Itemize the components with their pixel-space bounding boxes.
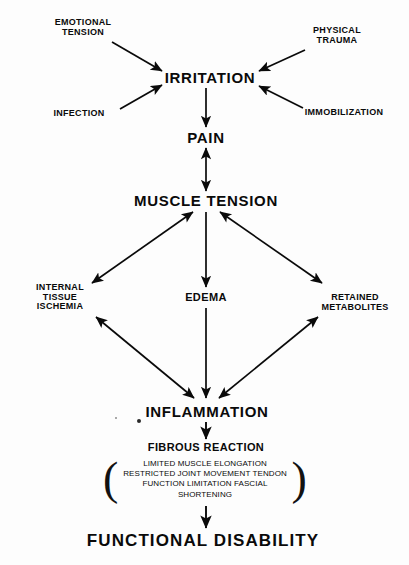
node-fibrous-reaction: FIBROUS REACTION (148, 442, 264, 454)
open-paren: ( (103, 457, 118, 503)
fibrous-effect-item: LIMITED MUSCLE ELONGATION (143, 459, 267, 468)
edge-physical-trauma-to-irritation (259, 50, 305, 71)
node-emotional-tension-line2: TENSION (38, 28, 128, 38)
fibrous-effects-list: ( LIMITED MUSCLE ELONGATION RESTRICTED J… (105, 459, 305, 500)
node-infection: INFECTION (53, 109, 104, 119)
node-immobilization: IMMOBILIZATION (305, 108, 384, 118)
node-retained-metabolites-line2: METABOLITES (305, 303, 405, 313)
node-inflammation: INFLAMMATION (145, 404, 268, 420)
node-edema: EDEMA (185, 292, 227, 304)
node-muscle-tension: MUSCLE TENSION (134, 193, 278, 209)
scan-speck (137, 419, 141, 423)
node-physical-trauma-line2: TRAUMA (292, 36, 382, 46)
node-physical-trauma: PHYSICAL TRAUMA (292, 26, 382, 45)
scan-speck (115, 417, 117, 419)
edge-muscle-tension-ischemia (92, 212, 193, 283)
edge-ischemia-inflammation (96, 317, 194, 398)
edge-retained-metabolites-inflammation (219, 317, 318, 398)
node-functional-disability: FUNCTIONAL DISABILITY (87, 532, 319, 550)
node-ischemia-line3: ISCHEMIA (15, 303, 105, 313)
node-retained-metabolites: RETAINED METABOLITES (305, 293, 405, 312)
edge-muscle-tension-retained-metabolites (220, 212, 322, 283)
fibrous-effect-item: RESTRICTED JOINT MOVEMENT (123, 469, 250, 478)
flowchart-diagram: EMOTIONAL TENSION PHYSICAL TRAUMA INFECT… (0, 0, 409, 565)
edge-emotional-tension-to-irritation (112, 42, 162, 71)
node-irritation: IRRITATION (165, 70, 256, 86)
node-internal-tissue-ischemia: INTERNAL TISSUE ISCHEMIA (15, 283, 105, 312)
edge-infection-to-irritation (120, 85, 162, 109)
node-pain: PAIN (187, 130, 225, 146)
node-emotional-tension: EMOTIONAL TENSION (38, 18, 128, 37)
edge-immobilization-to-irritation (259, 86, 303, 108)
close-paren: ) (292, 457, 307, 503)
node-fibrous-effects-group: ( LIMITED MUSCLE ELONGATION RESTRICTED J… (105, 459, 305, 501)
